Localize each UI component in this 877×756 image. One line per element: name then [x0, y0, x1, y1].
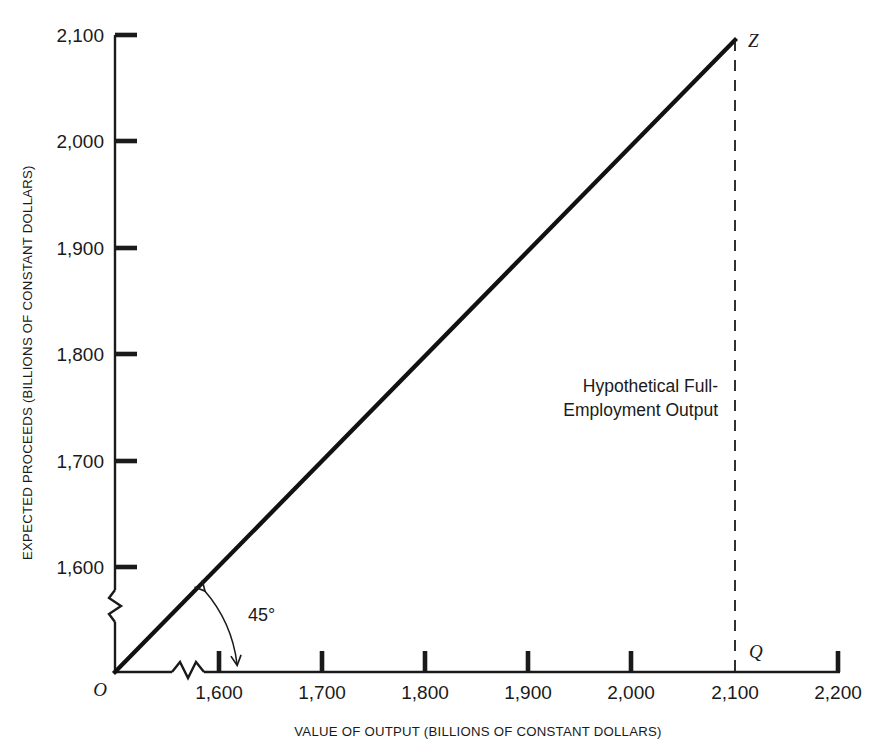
y-axis-break-mark: [109, 590, 121, 622]
annotation-full-employment-line1: Hypothetical Full-: [583, 376, 718, 396]
y-tick-label-2100: 2,100: [56, 25, 104, 46]
y-tick-label-1600: 1,600: [56, 557, 104, 578]
x-tick-label-1800: 1,800: [401, 682, 449, 703]
x-tick-label-2100: 2,100: [711, 682, 759, 703]
annotation-full-employment: Hypothetical Full- Employment Output: [563, 376, 718, 420]
annotation-full-employment-line2: Employment Output: [563, 400, 718, 420]
x-tick-label-2000: 2,000: [607, 682, 655, 703]
x-axis-break-mark: [172, 662, 204, 678]
y-axis-group: 2,100 2,000 1,900 1,800 1,700 1,600 EXPE…: [20, 25, 137, 672]
point-label-z: Z: [748, 30, 759, 51]
angle-label-45: 45°: [248, 605, 275, 625]
chart-figure: 2,100 2,000 1,900 1,800 1,700 1,600 EXPE…: [0, 0, 877, 756]
y-tick-label-2000: 2,000: [56, 131, 104, 152]
point-label-q: Q: [749, 641, 763, 662]
x-axis-caption: VALUE OF OUTPUT (BILLIONS OF CONSTANT DO…: [294, 724, 661, 739]
y-tick-label-1900: 1,900: [56, 238, 104, 259]
x-tick-label-1700: 1,700: [298, 682, 346, 703]
series-45-degree-line: [115, 40, 735, 672]
x-tick-label-1600: 1,600: [195, 682, 243, 703]
x-tick-label-1900: 1,900: [504, 682, 552, 703]
y-tick-label-1700: 1,700: [56, 451, 104, 472]
y-tick-label-1800: 1,800: [56, 344, 104, 365]
annotation-angle-45: 45°: [204, 590, 275, 664]
x-tick-label-2200: 2,200: [814, 682, 862, 703]
x-axis-group: 1,600 1,700 1,800 1,900 2,000 2,100 2,20…: [115, 651, 862, 739]
origin-label: O: [93, 679, 107, 700]
chart-canvas: 2,100 2,000 1,900 1,800 1,700 1,600 EXPE…: [0, 0, 877, 756]
y-axis-caption: EXPECTED PROCEEDS (BILLIONS OF CONSTANT …: [20, 165, 35, 560]
